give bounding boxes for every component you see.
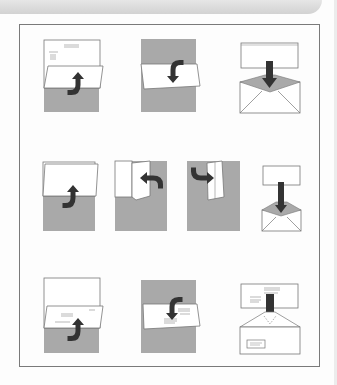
letter-folding-diagram (0, 0, 337, 385)
step-fold-bottom-half-up (43, 162, 98, 231)
step-insert-into-envelope (240, 43, 300, 113)
step-insert-into-window-envelope (240, 284, 300, 354)
step-fold-bottom-third-up-address (44, 278, 103, 353)
step-fold-bottom-third-up (44, 40, 103, 112)
step-insert-into-small-envelope (262, 166, 301, 231)
step-fold-top-third-down-address-out (141, 280, 200, 353)
envelope-window (247, 340, 265, 348)
step-fold-left-third-right (187, 161, 240, 231)
step-fold-right-third-left (115, 161, 167, 231)
step-fold-top-third-down (141, 39, 200, 112)
